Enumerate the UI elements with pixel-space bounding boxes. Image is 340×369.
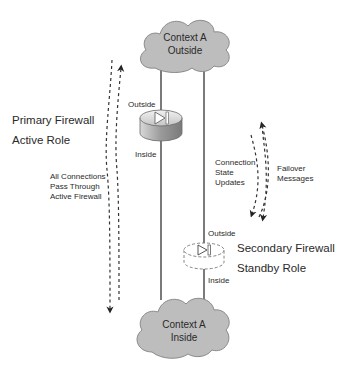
traffic-down-arrow [106, 60, 112, 310]
failover-diagram: Context A Outside Context A Inside Outsi… [0, 0, 340, 369]
failover-line1: Failover [277, 164, 313, 174]
primary-firewall-title: Primary Firewall Active Role [12, 110, 94, 150]
secondary-firewall-icon [184, 243, 224, 269]
traffic-note-line2: Pass Through [50, 182, 106, 192]
traffic-note: All Connections Pass Through Active Fire… [50, 172, 106, 202]
failover-messages-label: Failover Messages [277, 164, 313, 184]
cloud-bottom-label: Context A Inside [144, 318, 224, 344]
traffic-note-line3: Active Firewall [50, 192, 106, 202]
cloud-bottom-line2: Inside [144, 331, 224, 344]
connection-state-line2: State [215, 168, 255, 178]
traffic-up-arrow [116, 68, 121, 300]
traffic-note-line1: All Connections [50, 172, 106, 182]
failover-messages-arrow [259, 125, 268, 218]
primary-firewall-icon [140, 110, 182, 141]
cloud-top-line1: Context A [145, 31, 225, 44]
cloud-top-label: Context A Outside [145, 31, 225, 57]
failover-line2: Messages [277, 174, 313, 184]
cloud-bottom-line1: Context A [144, 318, 224, 331]
primary-title-line2: Active Role [12, 130, 94, 150]
connection-state-line3: Updates [215, 178, 255, 188]
secondary-firewall-title: Secondary Firewall Standby Role [237, 238, 335, 278]
secondary-title-line2: Standby Role [237, 258, 335, 278]
secondary-outside-label: Outside [208, 229, 236, 239]
primary-title-line1: Primary Firewall [12, 110, 94, 130]
primary-inside-label: Inside [135, 150, 156, 160]
connection-state-line1: Connection [215, 158, 255, 168]
connection-state-label: Connection State Updates [215, 158, 255, 188]
cloud-top-line2: Outside [145, 44, 225, 57]
primary-outside-label: Outside [128, 100, 156, 110]
secondary-title-line1: Secondary Firewall [237, 238, 335, 258]
secondary-inside-label: Inside [208, 276, 229, 286]
